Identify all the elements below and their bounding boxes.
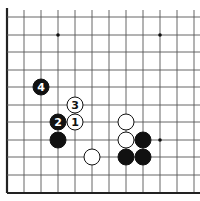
stone-icon — [84, 149, 100, 165]
stone-icon — [118, 114, 134, 130]
move-number: 4 — [37, 81, 45, 94]
board-grid — [7, 8, 200, 193]
black-stone — [50, 132, 66, 148]
black-stone-2: 2 — [50, 114, 66, 130]
white-stone — [118, 132, 134, 148]
stone-icon — [135, 149, 151, 165]
stone-icon — [118, 132, 134, 148]
move-number: 2 — [54, 116, 62, 129]
black-stone-4: 4 — [33, 79, 49, 95]
white-stone-3: 3 — [67, 97, 83, 113]
star-point-icon — [158, 138, 162, 142]
white-stone — [84, 149, 100, 165]
stone-icon — [50, 132, 66, 148]
move-number: 1 — [71, 116, 79, 129]
star-point-icon — [56, 33, 60, 37]
white-stone — [118, 114, 134, 130]
black-stone — [135, 132, 151, 148]
black-stone — [118, 149, 134, 165]
go-board-diagram: 4321 — [0, 0, 200, 201]
stone-icon — [135, 132, 151, 148]
black-stone — [135, 149, 151, 165]
stone-icon — [118, 149, 134, 165]
move-number: 3 — [71, 99, 79, 112]
white-stone-1: 1 — [67, 114, 83, 130]
star-point-icon — [158, 33, 162, 37]
